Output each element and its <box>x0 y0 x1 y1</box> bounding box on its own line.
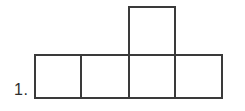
bottom-row-square-3 <box>129 55 175 98</box>
bottom-row-square-2 <box>81 55 129 98</box>
bottom-row-square-4 <box>175 55 222 98</box>
top-square <box>129 7 175 55</box>
bottom-row-square-1 <box>35 55 81 98</box>
square-net-figure <box>0 0 245 111</box>
figure-container: 1. <box>0 0 245 111</box>
